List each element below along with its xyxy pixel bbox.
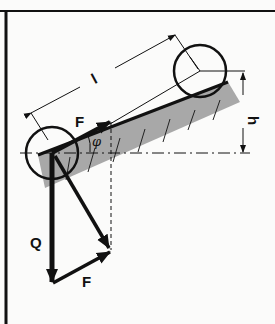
force-f-bottom-label: F xyxy=(82,273,91,290)
angle-phi-label: φ xyxy=(92,134,102,149)
height-label: h xyxy=(245,116,262,125)
force-f-label: F xyxy=(75,113,84,130)
length-label: l xyxy=(88,70,100,87)
height-dimension: h xyxy=(243,73,262,152)
diagram-canvas: l h F φ Q F xyxy=(0,0,275,324)
weight-q-label: Q xyxy=(30,234,42,251)
inclined-plane-diagram: l h F φ Q F xyxy=(0,0,275,324)
